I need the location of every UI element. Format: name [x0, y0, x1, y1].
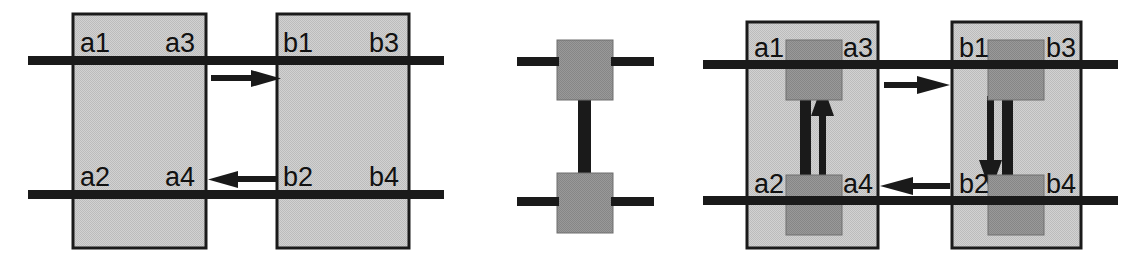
wire-b2-to-a4 [206, 190, 280, 199]
composed-port-label-b4: b4 [1046, 169, 1076, 199]
port-label-a2: a2 [80, 162, 110, 192]
composed-port-label-a3: a3 [843, 33, 873, 63]
wire-b3-right-stub [407, 56, 444, 65]
composed-arrow-b2-to-a4-icon [880, 177, 950, 195]
block-diagram-canvas: a1 a3 a2 a4 b1 b3 b2 b4 [0, 0, 1148, 269]
wire-b4-right-stub [407, 190, 444, 199]
composed-wire-b2-to-a4 [878, 196, 955, 205]
b-composed-top-block [988, 40, 1044, 100]
composed-wire-a2-left-stub [703, 196, 749, 205]
port-label-b2: b2 [283, 162, 313, 192]
connector-bottom-left-wire [517, 197, 559, 206]
connector-bottom-right-wire [611, 197, 654, 206]
port-label-b1: b1 [283, 28, 313, 58]
panel-right: a1 a3 a2 a4 b1 b3 b2 b4 [703, 22, 1118, 248]
composed-wire-b4-right-stub [1081, 196, 1118, 205]
connector-top-left-wire [517, 57, 559, 66]
arrow-b2-to-a4-icon [208, 171, 278, 188]
connector-top-right-wire [611, 57, 654, 66]
arrow-a3-to-b1-icon [211, 70, 281, 87]
composed-port-label-a4: a4 [843, 169, 873, 199]
composed-port-label-a2: a2 [754, 169, 784, 199]
port-label-b4: b4 [369, 162, 399, 192]
connector-top-block [557, 40, 613, 100]
diagram-root: a1 a3 a2 a4 b1 b3 b2 b4 [0, 0, 1148, 269]
composed-wire-a1-left-stub [703, 60, 749, 69]
wire-a3-to-b1 [206, 56, 280, 65]
wire-a2-left-stub [28, 190, 76, 199]
a-composed-top-block [786, 40, 842, 100]
port-label-b3: b3 [369, 28, 399, 58]
wire-a1-left-stub [28, 56, 76, 65]
composed-wire-a3-to-b1 [878, 60, 955, 69]
composed-port-label-a1: a1 [754, 33, 784, 63]
vertical-connector-link [578, 98, 591, 176]
composed-port-label-b2: b2 [959, 169, 989, 199]
composed-arrow-a3-to-b1-icon [884, 76, 950, 94]
port-label-a4: a4 [165, 162, 195, 192]
b-composed-vertical-link [1002, 95, 1013, 181]
a-composed-vertical-link [800, 95, 811, 181]
connector-bottom-block [557, 173, 613, 233]
composed-wire-b3-right-stub [1081, 60, 1118, 69]
panel-left: a1 a3 a2 a4 b1 b3 b2 b4 [28, 14, 444, 248]
composed-port-label-b1: b1 [959, 33, 989, 63]
port-label-a3: a3 [165, 28, 195, 58]
panel-middle [517, 40, 654, 233]
port-label-a1: a1 [80, 28, 110, 58]
composed-port-label-b3: b3 [1046, 33, 1076, 63]
